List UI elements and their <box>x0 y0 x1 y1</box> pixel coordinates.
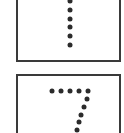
dot <box>82 105 87 110</box>
dot <box>68 25 73 30</box>
dot-digit-card-7: 7 <box>16 74 121 133</box>
dot <box>79 113 84 118</box>
dot <box>86 89 91 94</box>
dot <box>68 43 73 48</box>
dot <box>77 120 82 125</box>
dot <box>85 97 90 102</box>
dot <box>75 128 80 133</box>
dot <box>68 34 73 39</box>
dot <box>68 89 73 94</box>
dot <box>77 89 82 94</box>
dot <box>68 8 73 13</box>
dot <box>59 89 64 94</box>
dot <box>68 17 73 22</box>
digit-label: 7 <box>18 76 19 77</box>
dot <box>50 89 55 94</box>
